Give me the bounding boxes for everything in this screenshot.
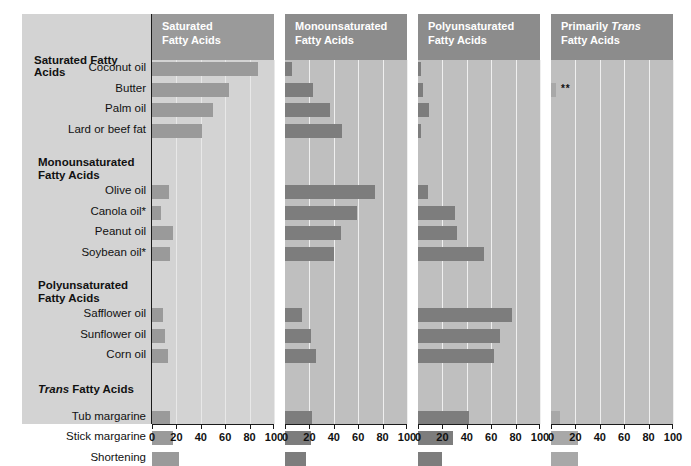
x-axis-tick	[442, 424, 443, 429]
panel-polyunsaturated: PolyunsaturatedFatty Acids	[418, 14, 540, 424]
bar	[418, 411, 469, 425]
bar	[285, 411, 312, 425]
bar	[285, 349, 316, 363]
gridline	[649, 60, 650, 424]
bar	[551, 452, 578, 466]
x-axis-tick	[334, 424, 335, 429]
x-axis-line	[418, 424, 540, 425]
bar	[152, 103, 213, 117]
x-axis-tick-label: 80	[642, 431, 654, 443]
category-label: Olive oil	[22, 184, 146, 196]
bar	[285, 62, 292, 76]
x-axis-tick	[309, 424, 310, 429]
gridline	[334, 60, 335, 424]
x-axis-tick	[516, 424, 517, 429]
plot-area	[152, 60, 274, 424]
bar	[152, 83, 229, 97]
x-axis-tick	[539, 424, 540, 429]
bar	[285, 185, 375, 199]
gridline	[624, 60, 625, 424]
bar	[285, 226, 341, 240]
x-axis-tick-label: 60	[485, 431, 497, 443]
x-axis-tick-label: 100	[531, 431, 549, 443]
category-label: Canola oil*	[22, 205, 146, 217]
bar	[551, 411, 560, 425]
bar	[152, 206, 161, 220]
x-axis-tick	[575, 424, 576, 429]
gridline	[442, 60, 443, 424]
category-label-panel: Saturated Fatty AcidsMonounsaturatedFatt…	[22, 14, 152, 424]
bar	[285, 124, 342, 138]
bar	[285, 83, 313, 97]
x-axis-tick	[624, 424, 625, 429]
bar	[285, 103, 330, 117]
gridline	[491, 60, 492, 424]
bar	[285, 206, 357, 220]
category-label: Lard or beef fat	[22, 123, 146, 135]
panel-saturated: SaturatedFatty Acids	[152, 14, 274, 424]
bar	[152, 452, 179, 466]
category-label: Sunflower oil	[22, 328, 146, 340]
x-axis-tick-label: 60	[352, 431, 364, 443]
bar	[418, 206, 455, 220]
category-label: Corn oil	[22, 348, 146, 360]
plot-area	[285, 60, 407, 424]
gridline	[516, 60, 517, 424]
x-axis-tick-label: 0	[548, 431, 554, 443]
gridline	[274, 60, 275, 424]
category-label: Shortening	[22, 451, 146, 463]
category-label: Palm oil	[22, 102, 146, 114]
x-axis-tick-label: 100	[265, 431, 283, 443]
gridline	[467, 60, 468, 424]
bar	[418, 83, 423, 97]
x-axis-tick	[467, 424, 468, 429]
bar	[418, 349, 494, 363]
gridline	[383, 60, 384, 424]
bar	[152, 247, 170, 261]
x-axis-tick	[551, 424, 552, 429]
bar	[152, 349, 168, 363]
x-axis-tick-label: 80	[509, 431, 521, 443]
plot-area: **	[551, 60, 673, 424]
x-axis-tick	[285, 424, 286, 429]
x-axis-tick-label: 0	[149, 431, 155, 443]
bar	[418, 62, 421, 76]
x-axis-tick	[176, 424, 177, 429]
x-axis-tick-label: 40	[195, 431, 207, 443]
x-axis-tick	[491, 424, 492, 429]
x-axis-tick-label: 0	[415, 431, 421, 443]
bar	[418, 329, 500, 343]
bar	[418, 452, 442, 466]
category-label-list: Saturated Fatty AcidsMonounsaturatedFatt…	[22, 14, 152, 424]
bar	[418, 308, 512, 322]
x-axis-tick	[383, 424, 384, 429]
bar	[418, 124, 421, 138]
category-label: Coconut oil	[22, 61, 146, 73]
category-label: Peanut oil	[22, 225, 146, 237]
category-label: Butter	[22, 82, 146, 94]
bar	[285, 308, 302, 322]
category-group-header: Trans Fatty Acids	[22, 383, 146, 395]
x-axis-tick-label: 100	[398, 431, 416, 443]
panel-title: Primarily TransFatty Acids	[551, 14, 673, 60]
x-axis-tick-label: 20	[569, 431, 581, 443]
panel-title: SaturatedFatty Acids	[152, 14, 274, 60]
bar	[418, 103, 429, 117]
panel-title: PolyunsaturatedFatty Acids	[418, 14, 540, 60]
x-axis-tick-label: 40	[328, 431, 340, 443]
x-axis-tick-label: 20	[436, 431, 448, 443]
category-label: Stick margarine	[22, 430, 146, 442]
panel-trans: Primarily TransFatty Acids**	[551, 14, 673, 424]
category-label: Tub margarine	[22, 410, 146, 422]
bar	[285, 452, 306, 466]
category-label: Safflower oil	[22, 307, 146, 319]
footnote-marker: **	[561, 83, 571, 94]
gridline	[225, 60, 226, 424]
x-axis-tick-label: 80	[376, 431, 388, 443]
gridline	[600, 60, 601, 424]
x-axis-tick	[672, 424, 673, 429]
bar	[152, 329, 165, 343]
category-group-header: PolyunsaturatedFatty Acids	[22, 279, 146, 305]
x-axis-tick	[273, 424, 274, 429]
